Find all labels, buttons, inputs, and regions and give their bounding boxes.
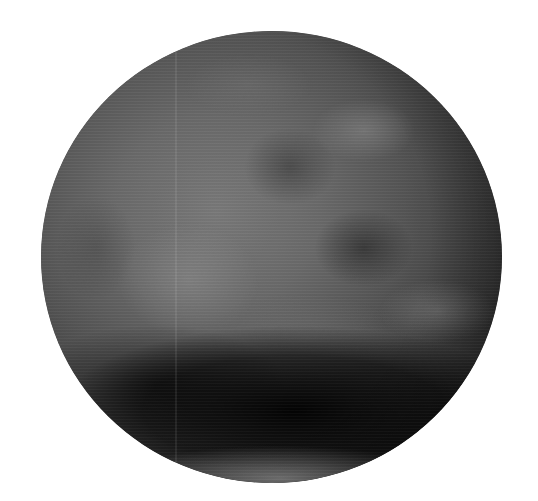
image-description: A blurry grayscale spherical body with m…	[0, 0, 1, 1]
image-canvas: A blurry grayscale spherical body with m…	[0, 0, 538, 501]
sphere-raster-noise	[41, 31, 502, 483]
scan-artifact-line	[175, 31, 177, 483]
planet-sphere	[41, 31, 502, 483]
